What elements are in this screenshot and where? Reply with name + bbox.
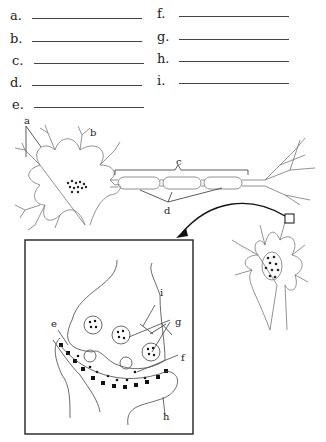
nucleus-dots-1 xyxy=(67,180,87,193)
zoom-arrow xyxy=(182,203,285,233)
synapse-inset-box xyxy=(25,240,193,434)
diagram-label-i: i xyxy=(160,287,163,298)
label-pointers xyxy=(26,126,248,335)
diagram-label-e: e xyxy=(51,318,57,329)
zoom-region-marker xyxy=(285,214,294,223)
diagram-label-a: a xyxy=(24,115,30,126)
diagram-label-h: h xyxy=(163,411,170,422)
diagram-label-g: g xyxy=(175,316,182,327)
neuron-diagram: a b c d e f g h i xyxy=(0,0,326,442)
diagram-label-d: d xyxy=(164,205,171,216)
nucleus-dots-2 xyxy=(265,256,280,279)
arrow-head-icon xyxy=(176,228,188,238)
diagram-label-b: b xyxy=(90,127,96,138)
diagram-label-c: c xyxy=(176,156,182,167)
synapse-inset xyxy=(53,260,178,425)
diagram-label-f: f xyxy=(181,352,186,363)
